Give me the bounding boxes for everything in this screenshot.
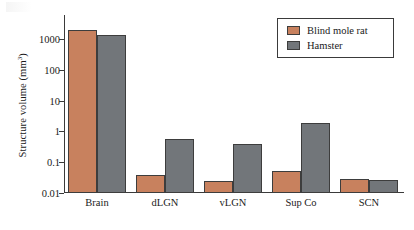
y-axis-tick-label: 1000 [39,34,60,45]
bar-dlgn-blind-mole-rat [136,175,165,193]
legend-entry-blind-mole-rat: Blind mole rat [287,25,368,36]
x-axis-label-scn: SCN [359,197,379,208]
y-axis-tick-labels: 0.010.11101001000 [8,15,60,193]
scan-artifact [6,2,32,12]
bar-sup-co-hamster [301,123,330,193]
x-axis-label-brain: Brain [85,197,108,208]
y-axis-tick [59,70,64,71]
y-axis-tick-label: 0.01 [42,188,60,199]
legend-label-hamster: Hamster [307,40,343,51]
legend-entry-hamster: Hamster [287,40,343,51]
x-axis-label-vlgn: vLGN [220,197,247,208]
x-axis-label-sup-co: Sup Co [285,197,316,208]
y-axis-tick [59,101,64,102]
bar-vlgn-hamster [233,144,262,193]
bar-scn-hamster [369,180,398,193]
bar-brain-hamster [97,35,126,194]
legend-label-blind-mole-rat: Blind mole rat [307,25,368,36]
y-axis-tick [59,193,64,194]
bar-vlgn-blind-mole-rat [204,181,233,193]
bar-chart: Structure volume (mm3) 0.010.11101001000… [0,0,414,230]
y-axis-line [64,15,65,193]
bar-sup-co-blind-mole-rat [272,171,301,193]
legend: Blind mole rat Hamster [277,18,394,58]
bar-brain-blind-mole-rat [68,30,97,193]
legend-swatch-icon-hamster [287,41,300,50]
legend-swatch-icon-blind-mole-rat [287,26,300,35]
y-axis-tick [59,131,64,132]
y-axis-tick-label: 100 [44,64,60,75]
y-axis-tick [59,162,64,163]
bar-dlgn-hamster [165,139,194,193]
bar-scn-blind-mole-rat [340,179,369,193]
y-axis-tick [59,39,64,40]
x-axis-label-dlgn: dLGN [152,197,179,208]
